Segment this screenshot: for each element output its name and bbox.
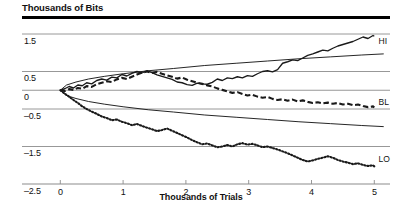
chart-container: Thousands of Bits 1.50.50–0.5–1.5–2.5 01… — [0, 0, 402, 209]
series-label-hi: HI — [378, 36, 387, 46]
x-axis-title: Thousands of Trials — [0, 192, 402, 202]
series-label-lo: LO — [378, 154, 390, 164]
series-label-bl: BL — [378, 97, 389, 107]
series-path-lower-envelope — [60, 90, 383, 126]
plot-area — [0, 0, 402, 209]
series-path-upper-envelope — [60, 54, 383, 90]
series-path-bl — [60, 72, 374, 108]
